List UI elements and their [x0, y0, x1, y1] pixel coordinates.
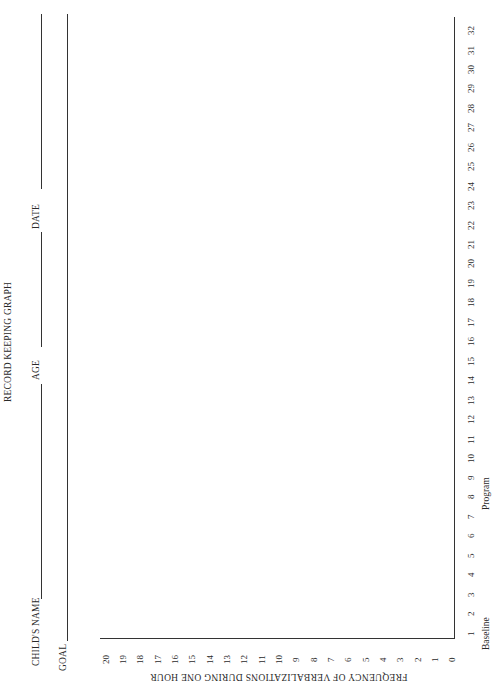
y-tick: 12	[240, 655, 249, 664]
x-axis-line	[454, 17, 455, 639]
x-tick: 1	[467, 631, 476, 636]
baseline-label: Baseline	[482, 617, 492, 650]
x-tick: 15	[467, 357, 476, 366]
y-tick: 14	[206, 655, 215, 664]
x-tick: 10	[467, 454, 476, 463]
x-tick: 25	[467, 162, 476, 171]
x-tick: 30	[467, 65, 476, 74]
childs-name-label: CHILD'S NAME	[32, 597, 42, 666]
x-tick: 22	[467, 221, 476, 230]
y-axis-title: FREQUENCY OF VERBALIZATIONS DURING ONE H…	[150, 671, 408, 681]
x-tick: 12	[467, 415, 476, 424]
y-tick: 11	[258, 655, 267, 664]
x-tick: 8	[467, 495, 476, 500]
x-tick: 18	[467, 298, 476, 307]
x-tick: 20	[467, 259, 476, 268]
goal-label: GOAL	[59, 644, 69, 671]
date-field-line[interactable]	[41, 14, 42, 189]
date-label: DATE	[32, 204, 42, 229]
x-tick: 24	[467, 182, 476, 191]
x-tick-labels: 1234567891011121314151617181920212223242…	[465, 20, 481, 645]
x-tick: 23	[467, 201, 476, 210]
goal-field-line[interactable]	[67, 14, 68, 641]
x-tick: 32	[467, 26, 476, 35]
x-tick: 26	[467, 143, 476, 152]
y-tick: 17	[154, 655, 163, 664]
x-tick: 16	[467, 337, 476, 346]
y-tick: 5	[362, 658, 371, 663]
x-tick: 17	[467, 318, 476, 327]
x-tick: 27	[467, 123, 476, 132]
y-tick: 9	[292, 658, 301, 663]
y-tick: 7	[327, 658, 336, 663]
x-tick: 6	[467, 534, 476, 539]
x-tick: 28	[467, 104, 476, 113]
y-tick: 18	[136, 655, 145, 664]
y-axis-line	[100, 638, 455, 639]
y-tick: 2	[414, 658, 423, 663]
x-tick: 29	[467, 84, 476, 93]
x-tick: 7	[467, 514, 476, 519]
y-tick: 6	[344, 658, 353, 663]
x-tick: 3	[467, 592, 476, 597]
y-tick: 8	[310, 658, 319, 663]
form-title: RECORD KEEPING GRAPH	[4, 282, 14, 402]
y-tick: 20	[102, 655, 111, 664]
y-tick: 4	[379, 658, 388, 663]
x-tick: 4	[467, 573, 476, 578]
plot-area[interactable]	[100, 17, 454, 639]
age-label: AGE	[32, 360, 42, 380]
y-tick: 0	[448, 658, 457, 663]
x-tick: 2	[467, 612, 476, 617]
y-tick-labels: 20 19 18 17 16 15 14 13 12 11 10 9 8 7 6…	[100, 652, 460, 666]
y-tick: 10	[275, 655, 284, 664]
x-tick: 9	[467, 475, 476, 480]
program-label: Program	[482, 477, 492, 510]
childs-name-field-line[interactable]	[41, 384, 42, 599]
y-tick: 13	[223, 655, 232, 664]
y-tick: 19	[119, 655, 128, 664]
x-tick: 11	[467, 435, 476, 444]
age-field-line[interactable]	[41, 232, 42, 347]
x-tick: 19	[467, 279, 476, 288]
x-tick: 14	[467, 376, 476, 385]
y-tick: 3	[396, 658, 405, 663]
x-tick: 21	[467, 240, 476, 249]
x-tick: 31	[467, 46, 476, 55]
y-tick: 1	[431, 658, 440, 663]
x-tick: 13	[467, 396, 476, 405]
y-tick: 16	[171, 655, 180, 664]
x-tick: 5	[467, 553, 476, 558]
y-tick: 15	[188, 655, 197, 664]
